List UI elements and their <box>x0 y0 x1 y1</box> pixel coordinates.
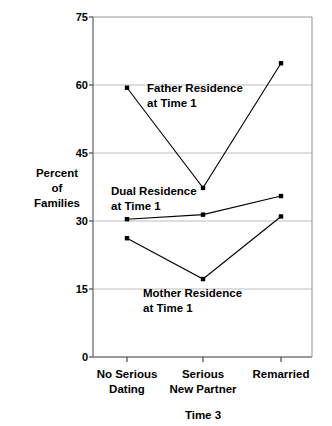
y-axis-title-line: of <box>52 182 63 194</box>
y-tick-label: 45 <box>76 147 88 159</box>
series-label-mother: Mother Residence <box>143 287 242 299</box>
data-point-marker <box>125 236 129 240</box>
data-point-marker <box>201 212 205 216</box>
data-point-marker <box>279 61 283 65</box>
y-tick-label: 0 <box>82 351 88 363</box>
data-point-marker <box>125 86 129 90</box>
y-tick-label: 15 <box>76 283 88 295</box>
data-point-marker <box>279 194 283 198</box>
x-tick-label: Serious <box>182 368 224 380</box>
chart-container: 0 15 30 45 60 75 Percent of Families No … <box>0 0 332 426</box>
x-tick-label: Remarried <box>253 368 310 380</box>
data-point-marker <box>201 186 205 190</box>
series-label-dual: at Time 1 <box>111 200 161 212</box>
series-label-dual: Dual Residence <box>111 185 197 197</box>
y-axis-title-line: Percent <box>36 167 78 179</box>
y-axis-title-line: Families <box>34 197 80 209</box>
data-point-marker <box>201 277 205 281</box>
x-tick-label: Dating <box>109 383 145 395</box>
data-point-marker <box>125 217 129 221</box>
x-tick-label: New Partner <box>169 383 237 395</box>
data-point-marker <box>279 214 283 218</box>
y-tick-label: 75 <box>76 11 88 23</box>
series-label-mother: at Time 1 <box>143 302 193 314</box>
series-label-father: at Time 1 <box>147 97 197 109</box>
x-axis-title: Time 3 <box>185 409 221 421</box>
series-label-father: Father Residence <box>147 82 243 94</box>
x-tick-label: No Serious <box>97 368 158 380</box>
y-tick-label: 60 <box>76 79 88 91</box>
y-tick-label: 30 <box>76 215 88 227</box>
line-chart: 0 15 30 45 60 75 Percent of Families No … <box>0 0 332 426</box>
